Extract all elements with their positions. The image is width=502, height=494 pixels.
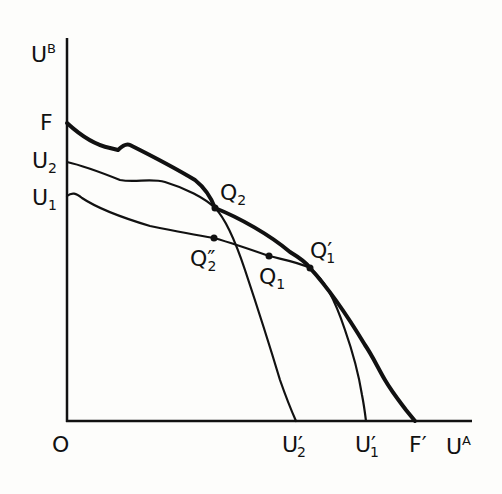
- y-intercept-f: F: [40, 112, 53, 134]
- label-prime: ′: [422, 432, 427, 457]
- label-sub: 1: [276, 276, 285, 292]
- label-base: U: [282, 432, 298, 457]
- label-sub: 1: [326, 250, 335, 266]
- point-q2-dot: [212, 205, 219, 212]
- point-q1p-label: Q′1: [310, 240, 335, 265]
- y-intercept-u1: U1: [32, 187, 57, 212]
- utility-curve-u1: [67, 194, 366, 421]
- y-axis-label-sup: B: [47, 41, 56, 56]
- y-intercept-u2: U2: [32, 150, 57, 175]
- point-q2pp-label: Q″2: [190, 248, 216, 273]
- label-base: Q: [190, 246, 207, 271]
- label-sub: 2: [237, 192, 246, 208]
- label-base: Q: [259, 264, 276, 289]
- label-base: F: [40, 110, 53, 135]
- label-base: U: [32, 185, 48, 210]
- origin-label: O: [52, 434, 69, 456]
- x-axis-label: UA: [446, 434, 471, 458]
- y-axis-label-base: U: [31, 42, 47, 67]
- label-base: F: [409, 432, 422, 457]
- point-q2-label: Q2: [220, 182, 246, 207]
- label-sub: 2: [297, 444, 306, 460]
- label-base: Q: [220, 180, 237, 205]
- point-q1-label: Q1: [259, 266, 285, 291]
- x-axis-label-sup: A: [462, 433, 471, 448]
- label-sub: 1: [48, 197, 57, 213]
- x-intercept-u2p: U′2: [282, 434, 306, 459]
- x-axis-label-base: U: [446, 434, 462, 459]
- label-base: Q: [310, 238, 327, 263]
- x-intercept-fp: F′: [409, 434, 427, 456]
- diagram-canvas: [0, 0, 502, 494]
- label-sub: 1: [370, 444, 379, 460]
- y-axis-label: UB: [31, 42, 56, 66]
- label-sub: 2: [208, 258, 217, 274]
- utility-curve-u2: [67, 162, 296, 421]
- label-sub: 2: [48, 160, 57, 176]
- frontier-curve-ff: [67, 123, 415, 421]
- point-q1-dot: [266, 253, 273, 260]
- x-intercept-u1p: U′1: [355, 434, 379, 459]
- label-base: U: [355, 432, 371, 457]
- point-q1p-dot: [307, 265, 314, 272]
- point-q2pp-dot: [211, 235, 218, 242]
- label-base: U: [32, 148, 48, 173]
